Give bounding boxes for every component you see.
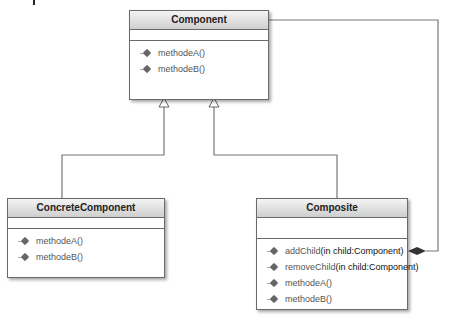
attributes-compartment (257, 218, 407, 239)
method-icon (18, 253, 30, 262)
class-composite[interactable]: Composite addChild(in child:Component) r… (256, 198, 408, 310)
attributes-compartment (8, 218, 164, 229)
generalization-line-concrete (62, 107, 164, 198)
method-icon (140, 65, 152, 74)
method-icon (267, 247, 279, 256)
composition-diamond-icon (408, 247, 426, 255)
class-component[interactable]: Component methodeA() methodeB() (129, 10, 269, 100)
operation[interactable]: methodeB() (8, 249, 164, 265)
class-concretecomponent[interactable]: ConcreteComponent methodeA() methodeB() (7, 198, 165, 278)
class-name: ConcreteComponent (8, 199, 164, 218)
class-name: Component (130, 11, 268, 30)
operation[interactable]: methodeB() (257, 291, 407, 307)
operations-compartment: methodeA() methodeB() (130, 41, 268, 77)
operation[interactable]: methodeA() (257, 275, 407, 291)
operation[interactable]: methodeA() (130, 45, 268, 61)
operation[interactable]: methodeB() (130, 61, 268, 77)
class-name: Composite (257, 199, 407, 218)
operations-compartment: methodeA() methodeB() (8, 229, 164, 265)
method-icon (267, 295, 279, 304)
operation[interactable]: removeChild(in child:Component) (257, 259, 407, 275)
method-icon (140, 49, 152, 58)
operation[interactable]: methodeA() (8, 233, 164, 249)
operations-compartment: addChild(in child:Component) removeChild… (257, 239, 407, 307)
method-icon (18, 237, 30, 246)
operation[interactable]: addChild(in child:Component) (257, 243, 407, 259)
attributes-compartment (130, 30, 268, 41)
method-icon (267, 279, 279, 288)
method-icon (267, 263, 279, 272)
generalization-line-composite (214, 107, 337, 198)
